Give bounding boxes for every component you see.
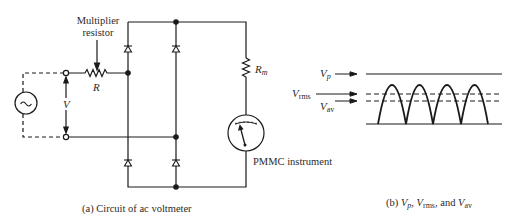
terminal-bottom [63, 134, 68, 139]
waveform-caption: (b) Vp, Vrms, and Vav [386, 197, 472, 212]
junction-dot [173, 184, 179, 190]
diode-icon [124, 160, 132, 166]
multiplier-resistor-label: Multiplier resistor [68, 15, 128, 39]
ac-source-icon [15, 92, 37, 114]
junction-dot [125, 70, 131, 76]
pmmc-instrument-label: PMMC instrument [253, 156, 332, 168]
waveform-plot [316, 72, 502, 124]
dashed-lead-top [23, 73, 63, 92]
junction-dot [173, 19, 179, 25]
meter-resistor-label: Rm [255, 63, 268, 79]
circuit-caption: (a) Circuit of ac voltmeter [82, 203, 192, 215]
dashed-lead-bottom [23, 114, 63, 137]
diode-icon [124, 46, 132, 52]
vrms-label: Vrms [292, 87, 311, 103]
junction-dot [173, 134, 179, 140]
voltage-v-label: V [62, 98, 71, 110]
vav-label: Vav [320, 100, 334, 116]
vp-label: Vp [320, 67, 331, 83]
diode-icon [172, 160, 180, 166]
resistor-r-label: R [93, 81, 100, 93]
diode-icon [172, 46, 180, 52]
terminal-top [63, 70, 68, 75]
